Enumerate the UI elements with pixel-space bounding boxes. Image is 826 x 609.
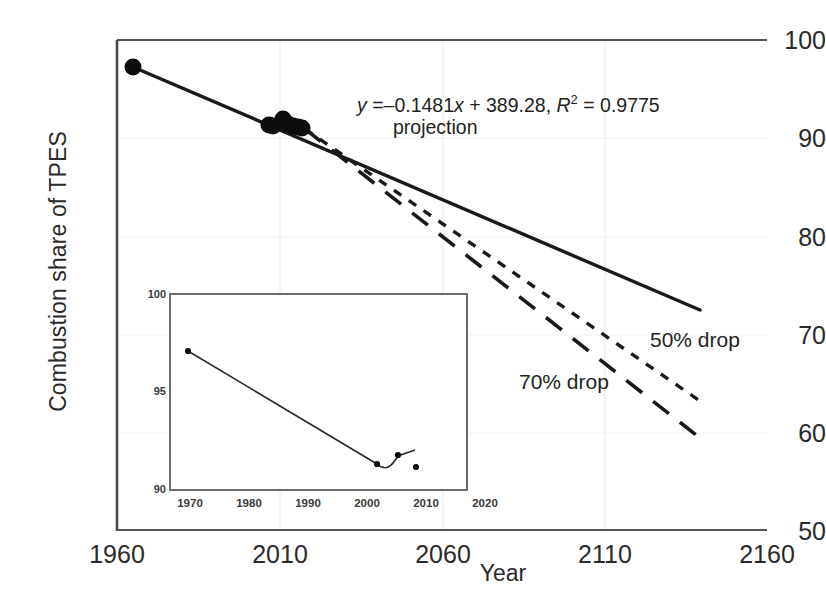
drop-50-label: 50% drop <box>650 328 740 352</box>
inset-x-tick-label: 2020 <box>455 498 515 510</box>
data-point <box>125 59 142 76</box>
data-point <box>294 120 311 137</box>
inset-data-point <box>413 464 419 470</box>
eq-tail: + 389.28, <box>464 94 557 116</box>
inset-x-tick-label: 1990 <box>278 498 338 510</box>
inset-x-tick-label: 2010 <box>396 498 456 510</box>
projection-label: projection <box>393 116 478 138</box>
regression-equation-label: y =–0.1481x + 389.28, R2 = 0.9775 <box>357 93 660 116</box>
inset-x-tick-label: 1980 <box>219 498 279 510</box>
eq-r-value: = 0.9775 <box>578 94 660 116</box>
inset-y-tick-label: 100 <box>126 289 166 300</box>
drop-70-label: 70% drop <box>519 370 609 394</box>
eq-x-symbol: x <box>454 94 464 116</box>
eq-r-exponent: 2 <box>571 92 578 107</box>
inset-y-tick-label: 95 <box>126 386 166 397</box>
plot-canvas <box>0 0 826 609</box>
series-data-points <box>125 59 311 137</box>
inset-chart <box>170 294 467 490</box>
inset-y-tick-label: 90 <box>126 484 166 495</box>
inset-plot-frame <box>170 294 467 490</box>
inset-data-point <box>395 452 401 458</box>
eq-body: =–0.1481 <box>367 94 454 116</box>
eq-r-symbol: R <box>557 94 571 116</box>
chart-figure: Combustion share of TPES 100 90 80 70 60… <box>0 0 826 609</box>
inset-data-point <box>185 348 191 354</box>
inset-data-point <box>374 461 380 467</box>
inset-x-tick-label: 1970 <box>160 498 220 510</box>
inset-x-tick-label: 2000 <box>337 498 397 510</box>
eq-y-symbol: y <box>357 94 367 116</box>
